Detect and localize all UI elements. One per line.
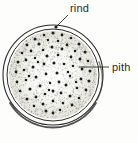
vascular-bundle-dot [44, 93, 47, 96]
vascular-bundle-dot [43, 34, 46, 37]
vascular-bundle-dot [17, 61, 20, 64]
vascular-bundle-dot [49, 82, 51, 84]
vascular-bundle-dot [67, 71, 70, 74]
vascular-bundle-dot [63, 63, 66, 66]
vascular-bundle-dot [35, 96, 38, 99]
vascular-bundle-dot [15, 71, 18, 74]
vascular-bundle-dot [52, 100, 55, 103]
vascular-bundle-dot [66, 44, 69, 47]
vascular-bundle-dot [76, 87, 79, 90]
vascular-bundle-dot [69, 95, 72, 98]
vascular-bundle-dot [52, 90, 55, 93]
vascular-bundle-dot [70, 56, 73, 59]
vascular-bundle-dot [53, 62, 56, 65]
diagram-canvas: rind pith [0, 0, 138, 143]
vascular-bundle-dot [79, 58, 82, 61]
vascular-bundle-dot [52, 32, 55, 35]
rind-leader-dot [54, 25, 57, 28]
vascular-bundle-dot [58, 81, 61, 84]
stem-cross-section-figure: rind pith [0, 0, 138, 143]
vascular-bundle-dot [45, 110, 48, 113]
vascular-bundle-dot [26, 44, 29, 47]
vascular-bundle-dot [78, 43, 81, 46]
vascular-bundle-dot [65, 84, 68, 87]
vascular-bundle-dot [87, 60, 90, 63]
vascular-bundle-dot [25, 59, 28, 62]
vascular-bundle-dot [71, 104, 74, 107]
vascular-bundle-dot [28, 75, 31, 78]
vascular-bundle-dot [43, 63, 46, 66]
rind-label-text: rind [70, 2, 89, 14]
vascular-bundle-dot [38, 43, 41, 46]
vascular-bundle-dot [39, 85, 42, 88]
vascular-bundle-dot [80, 78, 83, 81]
vascular-bundle-dot [51, 46, 54, 49]
vascular-bundle-dot [47, 39, 49, 41]
vascular-bundle-dot [84, 51, 87, 54]
vascular-bundle-dot [46, 55, 49, 58]
vascular-bundle-dot [37, 61, 39, 63]
vascular-bundle-dot [69, 75, 71, 77]
vascular-bundle-dot [78, 97, 81, 100]
vascular-bundle-dot [60, 92, 63, 95]
vascular-bundle-dot [23, 69, 26, 72]
vascular-bundle-dot [70, 37, 73, 40]
vascular-bundle-dot [57, 40, 60, 43]
vascular-bundle-dot [62, 102, 65, 105]
vascular-bundle-dot [34, 38, 37, 41]
vascular-bundle-dot [81, 68, 84, 71]
vascular-bundle-dot [35, 76, 38, 79]
vascular-bundle-dot [16, 81, 19, 84]
vascular-bundle-dot [85, 89, 88, 92]
vascular-bundle-dot [45, 73, 48, 76]
vascular-bundle-dot [75, 81, 77, 83]
pith-region [9, 31, 97, 119]
vascular-bundle-dot [72, 65, 74, 67]
vascular-bundle-dot [59, 109, 62, 112]
vascular-bundle-dot [61, 34, 64, 37]
pith-label-text: pith [112, 61, 131, 73]
vascular-bundle-dot [25, 79, 28, 82]
vascular-bundle-dot [56, 72, 59, 75]
vascular-bundle-dot [32, 66, 35, 69]
vascular-bundle-dot [52, 112, 55, 115]
vascular-bundle-dot [29, 88, 32, 91]
vascular-bundle-dot [61, 48, 64, 51]
vascular-bundle-dot [88, 80, 91, 83]
vascular-bundle-dot [74, 50, 76, 52]
vascular-bundle-dot [34, 57, 36, 59]
vascular-bundle-dot [26, 98, 29, 101]
vascular-bundle-dot [21, 52, 24, 55]
vascular-bundle-dot [89, 70, 92, 73]
vascular-bundle-dot [42, 49, 45, 52]
vascular-bundle-dot [48, 89, 50, 91]
vascular-bundle-dot [30, 50, 33, 53]
vascular-bundle-dot [57, 54, 60, 57]
vascular-bundle-dot [42, 103, 45, 106]
vascular-bundle-dot [33, 105, 36, 108]
vascular-bundle-dot [19, 90, 22, 93]
